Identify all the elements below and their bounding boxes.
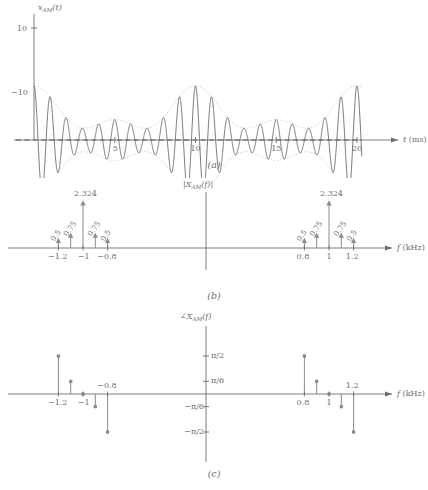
panel-c-stem-marker: [340, 405, 343, 408]
panel-b-y-axis-label: |XAM(f)|: [183, 180, 213, 189]
panel-c-stem-marker: [69, 380, 72, 383]
panel-c-ytick-label: π/6: [211, 376, 224, 385]
panel-c-xtick-label: 1: [326, 398, 331, 407]
panel-b-x-axis-label: f (kHz): [397, 243, 425, 252]
panel-c-y-axis-label: ∠XAM(f): [180, 312, 211, 321]
panel-c-stem-marker: [94, 405, 97, 408]
panel-a-xtick-label: 20: [352, 144, 362, 153]
panel-c-xtick-label: −0.8: [97, 381, 116, 390]
panel-c-stem-marker: [352, 430, 355, 433]
panel-a-time-waveform: xAM(t) 10 −10 t (ms) (a) 5101520: [0, 0, 428, 178]
panel-a-x-axis-arrow: [391, 137, 398, 142]
panel-b-stem-arrow: [80, 200, 85, 205]
panel-a-xtick-label: 15: [271, 144, 281, 153]
panel-a-y-axis-label: xAM(t): [38, 3, 62, 12]
panel-a-xtick-label: 10: [191, 144, 201, 153]
panel-c-xtick-label: −1: [78, 398, 90, 407]
panel-c-caption: (c): [0, 468, 428, 479]
panel-a-ytick-neg10: −10: [11, 88, 28, 97]
panel-c-stem-marker: [57, 354, 60, 357]
panel-b-xtick-label: 1: [326, 252, 331, 261]
panel-b-xtick-label: −1.2: [48, 252, 67, 261]
panel-c-stem-marker: [303, 354, 306, 357]
panel-c-ytick-label: π/2: [211, 351, 224, 360]
panel-b-x-axis-arrow: [385, 245, 392, 250]
panel-c-x-axis-arrow: [385, 391, 392, 396]
panel-b-caption: (b): [0, 290, 428, 301]
panel-c-stem-marker: [106, 430, 109, 433]
panel-c-phase-spectrum: ∠XAM(f) f (kHz) (c) π/2π/6−π/6−π/2−1.2−1…: [0, 310, 428, 490]
panel-b-stem-value: 2.324: [320, 189, 343, 198]
panel-b-stem-arrow: [326, 200, 331, 205]
panel-c-x-axis-label: f (kHz): [397, 389, 425, 398]
panel-c-ytick-label: −π/2: [184, 427, 204, 436]
panel-c-xtick-label: −1.2: [48, 398, 67, 407]
panel-b-xtick-label: −0.8: [97, 252, 116, 261]
panel-b-magnitude-spectrum: |XAM(f)| f (kHz) 0.50.752.3240.750.50.50…: [0, 178, 428, 310]
panel-b-xtick-label: 0.8: [297, 252, 310, 261]
panel-c-xtick-label: 0.8: [297, 398, 310, 407]
panel-b-xtick-label: −1: [78, 252, 90, 261]
panel-b-stem-value: 2.324: [74, 189, 97, 198]
panel-a-x-axis-label: t (ms): [403, 135, 427, 144]
panel-c-xtick-label: 1.2: [346, 381, 359, 390]
panel-c-stem-marker: [315, 380, 318, 383]
panel-a-tick-group: [31, 28, 357, 178]
panel-a-plot: [0, 0, 428, 178]
panel-a-xtick-label: 5: [113, 144, 118, 153]
panel-a-ytick-10: 10: [17, 24, 27, 33]
panel-c-ytick-label: −π/6: [184, 402, 204, 411]
panel-b-xtick-label: 1.2: [346, 252, 359, 261]
panel-a-caption: (a): [0, 159, 428, 170]
